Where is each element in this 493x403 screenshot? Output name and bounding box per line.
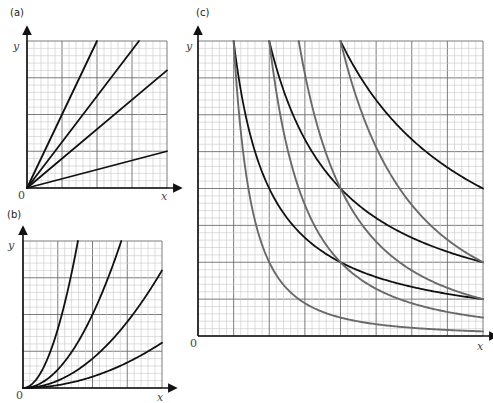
panel-c-y-label: y (185, 40, 193, 53)
panel-c: (c) y x 0 (185, 7, 491, 353)
curve-hyperbola-k-8 (234, 41, 483, 299)
figure-canvas: (a) y x 0 (b) y x 0 (c) y x 0 (0, 0, 493, 403)
panel-a-x-label: x (161, 190, 168, 203)
panel-b-x-label: x (157, 391, 164, 403)
panel-c-origin-label: 0 (190, 337, 197, 350)
panel-c-label: (c) (196, 7, 209, 18)
panel-b-y-label: y (7, 239, 15, 252)
panel-a-y-label: y (12, 40, 20, 53)
panel-a-grid (27, 41, 167, 188)
panel-c-curves (234, 41, 483, 331)
panel-a-origin-label: 0 (18, 189, 25, 202)
panel-b-origin-label: 0 (16, 389, 23, 402)
panel-c-x-label: x (477, 340, 484, 353)
panel-b-label: (b) (7, 209, 21, 220)
panel-a-label: (a) (10, 7, 24, 18)
panel-b: (b) y x 0 (7, 209, 170, 403)
panel-a: (a) y x 0 (10, 7, 175, 203)
